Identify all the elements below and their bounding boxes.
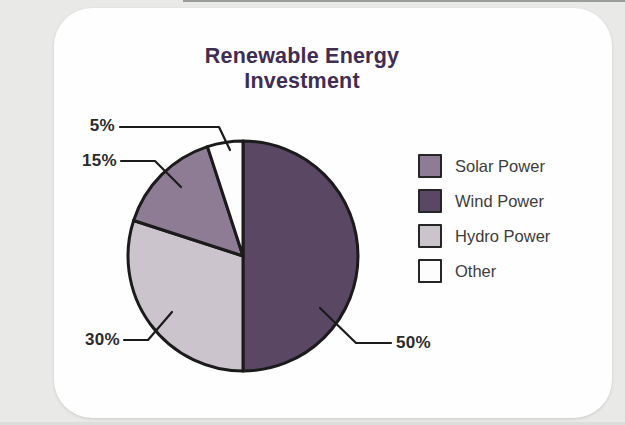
- legend-label-solar-power: Solar Power: [455, 157, 545, 176]
- legend-swatch-hydro-power: [418, 224, 442, 248]
- legend-label-other: Other: [455, 262, 496, 281]
- legend: Solar PowerWind PowerHydro PowerOther: [418, 155, 550, 282]
- pct-label-other: 5%: [63, 116, 115, 136]
- legend-item-other: Other: [418, 260, 550, 282]
- legend-swatch-other: [418, 259, 442, 283]
- legend-swatch-solar-power: [418, 154, 442, 178]
- pie-slice-wind-power: [243, 141, 358, 371]
- legend-item-wind-power: Wind Power: [418, 190, 550, 212]
- legend-swatch-wind-power: [418, 189, 442, 213]
- pie-slices-group: [128, 141, 358, 371]
- scanned-chart-page: { "chart_data": { "type": "pie", "title"…: [0, 0, 625, 425]
- pct-label-solar: 15%: [63, 151, 117, 171]
- legend-label-hydro-power: Hydro Power: [455, 227, 550, 246]
- pct-label-hydro: 30%: [66, 330, 120, 350]
- legend-label-wind-power: Wind Power: [455, 192, 544, 211]
- pct-label-wind: 50%: [396, 333, 431, 353]
- legend-item-hydro-power: Hydro Power: [418, 225, 550, 247]
- legend-item-solar-power: Solar Power: [418, 155, 550, 177]
